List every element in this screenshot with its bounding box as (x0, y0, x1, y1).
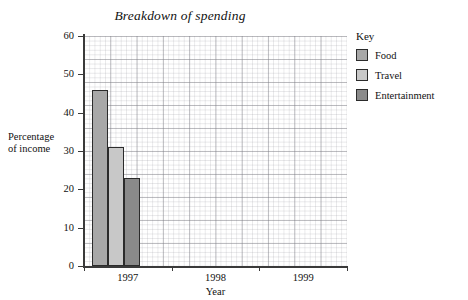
legend-item-food: Food (356, 49, 464, 61)
legend-swatch-icon (356, 89, 368, 101)
x-tick-mark (172, 266, 173, 271)
x-tick-label: 1999 (259, 272, 347, 283)
y-tick-mark (78, 113, 84, 114)
bar-travel-1997 (108, 147, 124, 266)
y-tick-label: 10 (52, 222, 74, 233)
y-tick-mark (78, 189, 84, 190)
chart-title: Breakdown of spending (0, 8, 360, 24)
x-tick-label: 1998 (172, 272, 260, 283)
legend-items: FoodTravelEntertainment (356, 49, 464, 101)
bar-entertainment-1997 (124, 178, 140, 266)
y-tick-label: 40 (52, 107, 74, 118)
legend-swatch-icon (356, 49, 368, 61)
x-axis-line (83, 266, 348, 268)
legend-swatch-icon (356, 69, 368, 81)
y-tick-label: 0 (52, 261, 74, 272)
y-axis-title-line-1: Percentage (8, 131, 80, 143)
y-tick-label: 20 (52, 184, 74, 195)
y-axis-title-line-2: of income (8, 143, 80, 155)
x-tick-mark (84, 266, 85, 271)
y-tick-mark (78, 228, 84, 229)
y-tick-label: 60 (52, 31, 74, 42)
bar-food-1997 (92, 90, 108, 266)
y-tick-mark (78, 74, 84, 75)
x-tick-mark (259, 266, 260, 271)
legend-item-label: Food (375, 50, 397, 61)
legend-item-label: Travel (375, 70, 402, 81)
x-axis-title: Year (84, 286, 347, 297)
y-tick-mark (78, 36, 84, 37)
legend-item-label: Entertainment (375, 90, 434, 101)
y-axis-title: Percentage of income (8, 131, 80, 156)
x-tick-label: 1997 (84, 272, 172, 283)
x-tick-mark (347, 266, 348, 271)
legend: Key FoodTravelEntertainment (356, 30, 464, 109)
y-tick-label: 50 (52, 69, 74, 80)
legend-item-travel: Travel (356, 69, 464, 81)
legend-title: Key (356, 30, 464, 42)
legend-item-entertainment: Entertainment (356, 89, 464, 101)
